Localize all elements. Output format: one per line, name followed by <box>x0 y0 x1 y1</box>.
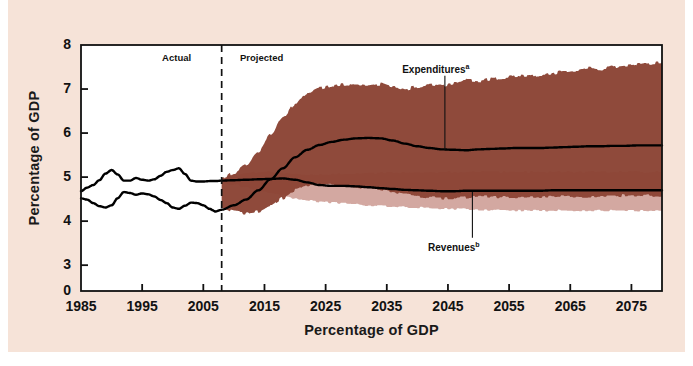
x-tick-label: 1985 <box>51 298 111 314</box>
x-tick-label: 1995 <box>112 298 172 314</box>
y-axis-title: Percentage of GDP <box>26 58 42 258</box>
x-tick-label: 2015 <box>234 298 294 314</box>
y-tick-label: 0 <box>49 282 71 298</box>
projected-label-text: Projected <box>240 52 283 63</box>
y-tick-label: 6 <box>49 124 71 140</box>
actual-label: Actual <box>162 52 191 63</box>
y-tick-label: 4 <box>49 212 71 228</box>
x-tick-label: 2035 <box>357 298 417 314</box>
revenues-label: Revenuesb <box>428 241 480 253</box>
y-tick-label: 5 <box>49 168 71 184</box>
x-tick-label: 2075 <box>601 298 661 314</box>
x-axis-title: Percentage of GDP <box>81 322 662 338</box>
y-tick-label: 7 <box>49 80 71 96</box>
x-tick-label: 2045 <box>418 298 478 314</box>
expenditures-label: Expendituresa <box>402 63 469 75</box>
x-tick-label: 2025 <box>296 298 356 314</box>
y-tick-label: 3 <box>49 256 71 272</box>
y-tick-label: 8 <box>49 36 71 52</box>
revenues-label-text: Revenues <box>428 242 475 253</box>
x-tick-label: 2005 <box>173 298 233 314</box>
projected-label: Projected <box>240 52 283 63</box>
x-tick-label: 2065 <box>540 298 600 314</box>
revenues-label-superscript: b <box>475 241 479 248</box>
actual-label-text: Actual <box>162 52 191 63</box>
x-tick-label: 2055 <box>479 298 539 314</box>
expenditures-label-superscript: a <box>466 63 470 70</box>
expenditures-label-text: Expenditures <box>402 65 465 76</box>
chart-figure: Percentage of GDP Percentage of GDP 0345… <box>0 0 693 366</box>
